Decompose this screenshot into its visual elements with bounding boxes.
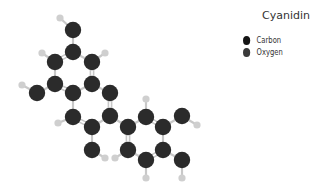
- carbon-atom: [47, 76, 63, 92]
- hydrogen-atom: [142, 95, 149, 102]
- carbon-atom: [120, 142, 136, 158]
- carbon-atom: [84, 76, 100, 92]
- oxygen-atom: [84, 142, 100, 158]
- carbon-swatch-icon: [243, 36, 250, 45]
- cyanidin-molecule-diagram: [0, 0, 327, 196]
- legend-item-oxygen: Oxygen: [243, 47, 283, 57]
- legend-label: Carbon: [257, 35, 282, 45]
- hydrogen-atom: [142, 174, 149, 181]
- carbon-atom: [138, 152, 154, 168]
- carbon-atom: [65, 44, 81, 60]
- carbon-atom: [155, 119, 171, 135]
- carbon-atom: [65, 85, 81, 101]
- oxygen-atom: [174, 108, 190, 124]
- hydrogen-atom: [18, 81, 25, 88]
- hydrogen-atom: [101, 49, 108, 56]
- hydrogen-atom: [193, 121, 200, 128]
- hydrogen-atom: [101, 154, 108, 161]
- hydrogen-atom: [178, 174, 185, 181]
- carbon-atom: [47, 54, 63, 70]
- hydrogen-atom: [38, 49, 45, 56]
- hydrogen-atom: [111, 154, 118, 161]
- carbon-atom: [84, 119, 100, 135]
- carbon-atom: [84, 54, 100, 70]
- legend-item-carbon: Carbon: [243, 35, 281, 45]
- diagram-title: Cyanidin: [262, 9, 310, 22]
- hydrogen-atom: [54, 119, 61, 126]
- oxygen-atom: [29, 85, 45, 101]
- carbon-atom: [120, 119, 136, 135]
- carbon-atom: [65, 109, 81, 125]
- oxygen-atom: [174, 152, 190, 168]
- carbon-atom: [102, 108, 118, 124]
- oxygen-swatch-icon: [243, 48, 250, 57]
- carbon-atom: [155, 142, 171, 158]
- oxygen-atom: [65, 22, 81, 38]
- oxygen-atom: [102, 85, 118, 101]
- legend-label: Oxygen: [257, 47, 283, 57]
- hydrogen-atom: [56, 14, 63, 21]
- carbon-atom: [138, 109, 154, 125]
